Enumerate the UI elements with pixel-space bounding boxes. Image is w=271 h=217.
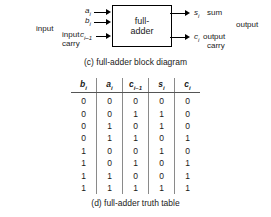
cell-s: 1 (149, 120, 175, 132)
wire-carry-output (170, 37, 186, 38)
header-a-subscript: i (111, 84, 113, 90)
table-row: 1 1 1 1 1 (71, 182, 200, 194)
table-row: 0 0 1 1 0 (71, 107, 200, 119)
table-row: 1 0 1 0 1 (71, 157, 200, 169)
arrowhead-a-input (106, 9, 111, 15)
cell-b: 0 (71, 132, 97, 144)
cell-s: 0 (149, 157, 175, 169)
cell-cin: 1 (123, 107, 149, 119)
output-label-carry-subscript: i (198, 37, 199, 43)
cell-a: 1 (97, 169, 123, 181)
full-adder-block-diagram: input input carry ai bi ci–1 full- adder (0, 0, 271, 72)
header-carry-out-subscript: i (189, 84, 191, 90)
cell-c: 0 (175, 107, 201, 119)
input-label-carry-in-subscript: i–1 (84, 35, 92, 41)
table-row: 0 0 0 0 0 (71, 93, 200, 108)
cell-s: 1 (149, 107, 175, 119)
truth-table-head: bi ai ci–1 si ci (71, 78, 200, 93)
full-adder-block-label-line1: full- (135, 16, 150, 26)
cell-a: 0 (97, 93, 123, 108)
arrowhead-carry-output (185, 34, 190, 40)
input-carry-label-line1: input (62, 30, 79, 39)
table-row: 0 1 1 0 1 (71, 132, 200, 144)
input-group-label: input (36, 24, 53, 33)
truth-table-header-a: ai (97, 78, 123, 93)
full-adder-figure: input input carry ai bi ci–1 full- adder (0, 0, 271, 217)
cell-c: 1 (175, 182, 201, 194)
input-label-b: bi (85, 16, 91, 27)
truth-table-header-row: bi ai ci–1 si ci (71, 78, 200, 93)
wire-sum-output (170, 13, 186, 14)
output-label-carry-text: output (203, 32, 225, 41)
table-row: 1 0 0 1 0 (71, 145, 200, 157)
cell-s: 0 (149, 132, 175, 144)
cell-s: 0 (149, 93, 175, 108)
output-label-carry-symbol-group: ci (194, 32, 199, 43)
cell-a: 1 (97, 120, 123, 132)
cell-b: 1 (71, 169, 97, 181)
cell-s: 0 (149, 169, 175, 181)
cell-cin: 0 (123, 120, 149, 132)
header-b-subscript: i (85, 84, 87, 90)
cell-c: 1 (175, 169, 201, 181)
truth-table-body: 0 0 0 0 0 0 0 1 1 0 0 1 0 1 (71, 93, 200, 195)
cell-s: 1 (149, 182, 175, 194)
arrowhead-sum-output (185, 10, 190, 16)
input-label-b-subscript: i (89, 21, 90, 27)
cell-a: 0 (97, 145, 123, 157)
truth-table-header-b: bi (71, 78, 97, 93)
output-group-label: output (236, 20, 258, 29)
cell-b: 1 (71, 145, 97, 157)
output-label-sum-subscript: i (198, 13, 199, 19)
cell-c: 0 (175, 145, 201, 157)
truth-table-caption: (d) full-adder truth table (0, 198, 271, 208)
full-adder-truth-table: bi ai ci–1 si ci 0 0 0 0 0 0 0 (71, 78, 200, 194)
cell-c: 0 (175, 93, 201, 108)
block-diagram-caption: (c) full-adder block diagram (0, 57, 271, 67)
cell-b: 1 (71, 157, 97, 169)
truth-table-header-sum: si (149, 78, 175, 93)
cell-cin: 0 (123, 93, 149, 108)
input-carry-label-line2: carry (62, 39, 80, 48)
cell-b: 0 (71, 107, 97, 119)
table-row: 0 1 0 1 0 (71, 120, 200, 132)
cell-b: 0 (71, 120, 97, 132)
cell-cin: 0 (123, 169, 149, 181)
cell-c: 1 (175, 132, 201, 144)
cell-cin: 0 (123, 145, 149, 157)
cell-a: 1 (97, 182, 123, 194)
truth-table-header-carry-in: ci–1 (123, 78, 149, 93)
truth-table-wrapper: bi ai ci–1 si ci 0 0 0 0 0 0 0 (0, 78, 271, 194)
cell-cin: 1 (123, 157, 149, 169)
cell-s: 1 (149, 145, 175, 157)
cell-a: 0 (97, 157, 123, 169)
header-carry-in-subscript: i–1 (134, 84, 142, 90)
arrowhead-b-input (106, 19, 111, 25)
arrowhead-carry-in (106, 33, 111, 39)
output-label-sum-symbol-group: si (194, 8, 199, 19)
input-label-carry-in: ci–1 (80, 30, 92, 41)
cell-cin: 1 (123, 132, 149, 144)
cell-c: 0 (175, 120, 201, 132)
cell-b: 1 (71, 182, 97, 194)
table-row: 1 1 0 0 1 (71, 169, 200, 181)
cell-a: 1 (97, 132, 123, 144)
cell-cin: 1 (123, 182, 149, 194)
header-sum-subscript: i (163, 84, 165, 90)
cell-b: 0 (71, 93, 97, 108)
output-carry-label-line2: carry (207, 41, 225, 50)
full-adder-block: full- adder (112, 5, 172, 47)
cell-c: 1 (175, 157, 201, 169)
full-adder-block-label-line2: adder (130, 26, 153, 36)
truth-table-header-carry-out: ci (175, 78, 201, 93)
output-label-sum-text: sum (207, 8, 222, 17)
cell-a: 0 (97, 107, 123, 119)
